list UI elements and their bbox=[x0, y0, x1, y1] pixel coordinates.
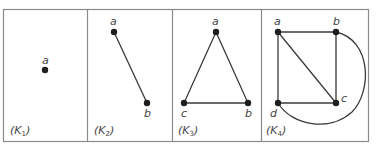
vertex-label-d: d bbox=[270, 107, 278, 120]
vertex-b bbox=[245, 100, 251, 106]
vertex-d bbox=[275, 100, 281, 106]
vertex-c bbox=[333, 100, 339, 106]
complete-graphs-figure: a (K1) a b (K2) a b c (K3) a b c bbox=[0, 0, 376, 146]
edge-a-c bbox=[278, 32, 336, 103]
panel-label-k1: (K1) bbox=[10, 124, 30, 138]
edges-triangle bbox=[184, 32, 248, 103]
panel-label-k4: (K4) bbox=[266, 124, 286, 138]
panel-k4: a b c d (K4) bbox=[266, 15, 365, 138]
vertex-label-a: a bbox=[274, 15, 281, 28]
panel-label-k3: (K3) bbox=[178, 124, 198, 138]
panel-k3: a b c (K3) bbox=[178, 15, 252, 138]
vertex-c bbox=[181, 100, 187, 106]
vertex-label-b: b bbox=[333, 15, 340, 28]
panel-label-k2: (K2) bbox=[94, 124, 114, 138]
vertex-a bbox=[213, 29, 219, 35]
vertex-a bbox=[275, 29, 281, 35]
vertex-a bbox=[111, 29, 117, 35]
edge-b-d-curved bbox=[278, 32, 365, 124]
vertex-label-c: c bbox=[341, 92, 347, 105]
vertex-label-c: c bbox=[181, 107, 187, 120]
edge-a-b bbox=[114, 32, 147, 103]
vertex-label-b: b bbox=[144, 107, 151, 120]
vertex-a bbox=[42, 67, 48, 73]
vertex-label-a: a bbox=[110, 15, 117, 28]
vertex-label-a: a bbox=[42, 54, 49, 67]
vertex-label-a: a bbox=[212, 15, 219, 28]
vertex-b bbox=[144, 100, 150, 106]
panel-k1: a (K1) bbox=[10, 54, 49, 138]
vertex-b bbox=[333, 29, 339, 35]
vertex-label-b: b bbox=[245, 107, 252, 120]
panel-k2: a b (K2) bbox=[94, 15, 151, 138]
